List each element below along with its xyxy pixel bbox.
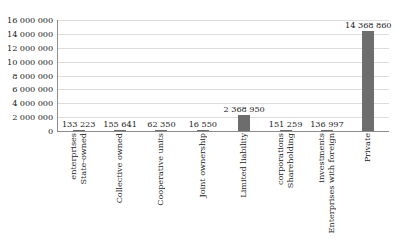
x-axis-category-label-lines: Shareholdingcorporations xyxy=(264,133,305,248)
x-axis-category-label-lines: Enterprises with foreigninvestments xyxy=(305,133,346,248)
x-axis-category-label-line: Limited liability xyxy=(238,133,248,198)
x-axis-category-label-line: Shareholding xyxy=(285,133,295,188)
bar-slot: 16 550 xyxy=(182,20,223,131)
x-axis-category-label-line: investments xyxy=(316,133,326,183)
x-axis: State-ownedenterprisesCollective ownedCo… xyxy=(57,133,388,250)
bar-slot: 62 350 xyxy=(141,20,182,131)
y-axis-tick-label: 8 000 000 xyxy=(12,72,53,80)
bar-slot: 133 223 xyxy=(58,20,99,131)
x-axis-category-label: Shareholdingcorporations xyxy=(264,133,305,248)
x-axis-category-label: State-ownedenterprises xyxy=(57,133,98,248)
x-axis-category-label-lines: Cooperative units xyxy=(140,133,181,248)
x-axis-category-label-line: Cooperative units xyxy=(155,133,165,206)
bar-slot: 155 641 xyxy=(99,20,140,131)
x-axis-category-label: Joint ownership xyxy=(181,133,222,248)
bar-slot: 151 259 xyxy=(265,20,306,131)
x-axis-category-label-lines: State-ownedenterprises xyxy=(57,133,98,248)
x-axis-category-label-lines: Collective owned xyxy=(98,133,139,248)
x-axis-category-label-line: Private xyxy=(362,133,372,162)
bar-slot: 14 368 860 xyxy=(348,20,389,131)
x-axis-category-label: Collective owned xyxy=(98,133,139,248)
y-axis-tick-label: 16 000 000 xyxy=(7,16,53,24)
bar-value-label: 14 368 860 xyxy=(336,21,396,30)
x-axis-category-label-lines: Private xyxy=(347,133,388,248)
x-axis-category-label-line: Joint ownership xyxy=(197,133,207,198)
bar-slot: 136 997 xyxy=(306,20,347,131)
x-axis-category-label-line: corporations xyxy=(275,133,285,185)
y-axis-tick-label: 14 000 000 xyxy=(7,30,53,38)
x-axis-category-label: Enterprises with foreigninvestments xyxy=(305,133,346,248)
x-axis-category-label-line: enterprises xyxy=(68,133,78,180)
y-axis-tick-label: 12 000 000 xyxy=(7,44,53,52)
x-axis-category-label-lines: Joint ownership xyxy=(181,133,222,248)
y-axis-tick-label: 6 000 000 xyxy=(12,85,53,93)
x-axis-line xyxy=(57,131,388,132)
x-axis-category-label-line: State-owned xyxy=(78,133,88,184)
x-axis-category-label-lines: Limited liability xyxy=(223,133,264,248)
x-axis-category-label-line: Collective owned xyxy=(114,133,124,203)
x-axis-category-label: Limited liability xyxy=(223,133,264,248)
y-axis: 16 000 00014 000 00012 000 00010 000 000… xyxy=(0,14,55,134)
x-axis-category-label: Cooperative units xyxy=(140,133,181,248)
y-axis-tick-label: 4 000 000 xyxy=(12,99,53,107)
bar[interactable] xyxy=(362,31,374,131)
bar-slot: 2 368 950 xyxy=(224,20,265,131)
bar[interactable] xyxy=(238,115,250,131)
plot-area: 133 223155 64162 35016 5502 368 950151 2… xyxy=(57,20,389,131)
x-axis-category-label-line: Enterprises with foreign xyxy=(326,133,336,233)
y-axis-tick-label: 10 000 000 xyxy=(7,58,53,66)
x-axis-category-label: Private xyxy=(347,133,388,248)
